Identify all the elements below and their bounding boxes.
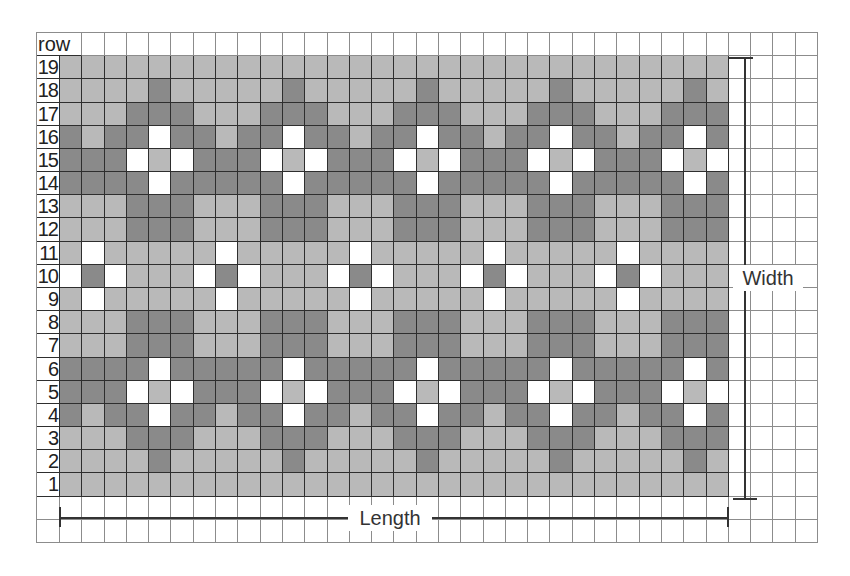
empty-cell bbox=[773, 195, 795, 218]
empty-cell bbox=[751, 450, 773, 473]
light-stitch-cell bbox=[484, 334, 506, 357]
dark-stitch-cell bbox=[149, 195, 171, 218]
empty-cell bbox=[773, 358, 795, 381]
light-stitch-cell bbox=[216, 195, 238, 218]
light-stitch-cell bbox=[194, 473, 216, 496]
light-stitch-cell bbox=[662, 473, 684, 496]
dark-stitch-cell bbox=[640, 404, 662, 427]
empty-cell bbox=[751, 520, 773, 543]
light-stitch-cell bbox=[261, 79, 283, 102]
white-stitch-cell bbox=[283, 404, 305, 427]
light-stitch-cell bbox=[461, 218, 483, 241]
light-stitch-cell bbox=[171, 56, 193, 79]
dark-stitch-cell bbox=[127, 404, 149, 427]
dark-stitch-cell bbox=[684, 427, 706, 450]
light-stitch-cell bbox=[662, 79, 684, 102]
light-stitch-cell bbox=[216, 427, 238, 450]
width-label: Width bbox=[733, 265, 803, 291]
light-stitch-cell bbox=[640, 195, 662, 218]
light-stitch-cell bbox=[328, 56, 350, 79]
light-stitch-cell bbox=[506, 56, 528, 79]
dark-stitch-cell bbox=[617, 172, 639, 195]
dark-stitch-cell bbox=[617, 149, 639, 172]
light-stitch-cell bbox=[305, 56, 327, 79]
dark-stitch-cell bbox=[484, 381, 506, 404]
dark-stitch-cell bbox=[105, 126, 127, 149]
row-number-label: 19 bbox=[37, 56, 60, 79]
light-stitch-cell bbox=[328, 79, 350, 102]
empty-cell bbox=[773, 79, 795, 102]
light-stitch-cell bbox=[640, 334, 662, 357]
white-stitch-cell bbox=[707, 149, 729, 172]
light-stitch-cell bbox=[283, 149, 305, 172]
white-stitch-cell bbox=[484, 242, 506, 265]
dark-stitch-cell bbox=[350, 358, 372, 381]
light-stitch-cell bbox=[573, 242, 595, 265]
empty-cell bbox=[729, 288, 751, 311]
light-stitch-cell bbox=[573, 288, 595, 311]
dark-stitch-cell bbox=[216, 172, 238, 195]
white-stitch-cell bbox=[550, 358, 572, 381]
light-stitch-cell bbox=[372, 427, 394, 450]
dark-stitch-cell bbox=[127, 311, 149, 334]
dark-stitch-cell bbox=[484, 358, 506, 381]
white-stitch-cell bbox=[528, 149, 550, 172]
dark-stitch-cell bbox=[573, 404, 595, 427]
dark-stitch-cell bbox=[350, 172, 372, 195]
dark-stitch-cell bbox=[171, 172, 193, 195]
light-stitch-cell bbox=[439, 79, 461, 102]
dark-stitch-cell bbox=[439, 126, 461, 149]
light-stitch-cell bbox=[238, 103, 260, 126]
empty-cell bbox=[773, 242, 795, 265]
light-stitch-cell bbox=[105, 450, 127, 473]
dark-stitch-cell bbox=[394, 358, 416, 381]
light-stitch-cell bbox=[194, 311, 216, 334]
dark-stitch-cell bbox=[238, 404, 260, 427]
light-stitch-cell bbox=[238, 195, 260, 218]
light-stitch-cell bbox=[238, 56, 260, 79]
white-stitch-cell bbox=[328, 265, 350, 288]
empty-cell bbox=[640, 33, 662, 56]
light-stitch-cell bbox=[127, 450, 149, 473]
empty-cell bbox=[216, 33, 238, 56]
light-stitch-cell bbox=[707, 473, 729, 496]
light-stitch-cell bbox=[149, 56, 171, 79]
dark-stitch-cell bbox=[506, 381, 528, 404]
light-stitch-cell bbox=[328, 195, 350, 218]
light-stitch-cell bbox=[216, 103, 238, 126]
light-stitch-cell bbox=[461, 311, 483, 334]
light-stitch-cell bbox=[595, 450, 617, 473]
light-stitch-cell bbox=[461, 195, 483, 218]
dark-stitch-cell bbox=[238, 358, 260, 381]
light-stitch-cell bbox=[194, 218, 216, 241]
light-stitch-cell bbox=[216, 404, 238, 427]
dark-stitch-cell bbox=[528, 427, 550, 450]
light-stitch-cell bbox=[60, 288, 82, 311]
white-stitch-cell bbox=[684, 358, 706, 381]
white-stitch-cell bbox=[684, 404, 706, 427]
light-stitch-cell bbox=[684, 149, 706, 172]
dark-stitch-cell bbox=[394, 195, 416, 218]
dark-stitch-cell bbox=[573, 195, 595, 218]
dark-stitch-cell bbox=[684, 218, 706, 241]
dark-stitch-cell bbox=[439, 427, 461, 450]
light-stitch-cell bbox=[127, 473, 149, 496]
empty-cell bbox=[773, 103, 795, 126]
dark-stitch-cell bbox=[484, 149, 506, 172]
dark-stitch-cell bbox=[194, 381, 216, 404]
light-stitch-cell bbox=[506, 288, 528, 311]
dark-stitch-cell bbox=[127, 358, 149, 381]
light-stitch-cell bbox=[506, 103, 528, 126]
dark-stitch-cell bbox=[60, 126, 82, 149]
light-stitch-cell bbox=[662, 265, 684, 288]
light-stitch-cell bbox=[328, 218, 350, 241]
light-stitch-cell bbox=[82, 404, 104, 427]
light-stitch-cell bbox=[350, 218, 372, 241]
white-stitch-cell bbox=[662, 149, 684, 172]
light-stitch-cell bbox=[149, 149, 171, 172]
light-stitch-cell bbox=[595, 242, 617, 265]
light-stitch-cell bbox=[528, 56, 550, 79]
light-stitch-cell bbox=[417, 288, 439, 311]
empty-cell bbox=[305, 33, 327, 56]
empty-cell bbox=[729, 195, 751, 218]
